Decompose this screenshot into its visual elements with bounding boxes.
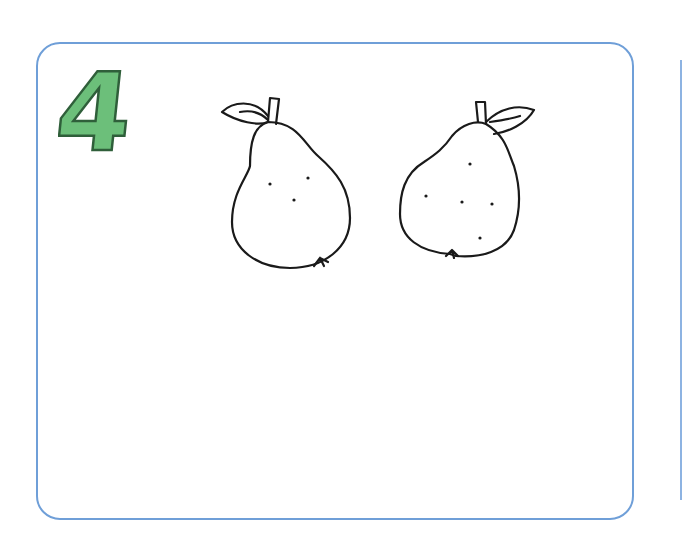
number-four-badge: 4 <box>58 58 130 160</box>
pear-icon <box>390 96 540 264</box>
number-label: 4 <box>58 58 130 160</box>
pear-icon <box>218 92 358 272</box>
